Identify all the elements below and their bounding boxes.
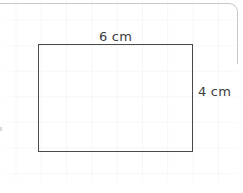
rectangle-shape [38,44,193,152]
geometry-figure-canvas: 6 cm 4 cm [0,0,243,193]
height-dimension-label: 4 cm [198,85,231,98]
left-edge-mark [0,127,2,131]
width-dimension-label: 6 cm [0,30,243,43]
